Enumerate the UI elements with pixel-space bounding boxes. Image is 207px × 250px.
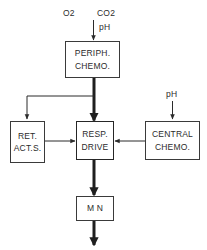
flow-diagram: O2 CO2 pH pH PERIPH. CHEMO. RET. ACT.S. …	[0, 0, 207, 250]
node-mn-line1: M N	[87, 202, 103, 214]
input-label-co2: CO2	[97, 8, 115, 18]
node-ret-act-s-line2: ACT.S.	[14, 142, 42, 154]
input-label-ph-top: pH	[99, 22, 110, 32]
node-ret-act-s[interactable]: RET. ACT.S.	[10, 121, 45, 163]
node-ret-act-s-line1: RET.	[18, 130, 37, 142]
node-resp-drive[interactable]: RESP. DRIVE	[76, 121, 114, 160]
node-periph-chemo[interactable]: PERIPH. CHEMO.	[65, 41, 120, 78]
node-mn[interactable]: M N	[76, 196, 114, 221]
node-resp-drive-line1: RESP.	[82, 128, 107, 140]
node-resp-drive-line2: DRIVE	[82, 141, 109, 153]
node-periph-chemo-line2: CHEMO.	[75, 60, 110, 72]
input-label-ph-central: pH	[166, 89, 177, 99]
edge-periph-to-ret-act-s	[27, 96, 94, 119]
node-periph-chemo-line1: PERIPH.	[75, 47, 110, 59]
node-central-chemo-line2: CHEMO.	[155, 141, 190, 153]
node-central-chemo[interactable]: CENTRAL CHEMO.	[145, 121, 200, 160]
input-label-o2: O2	[63, 8, 75, 18]
node-central-chemo-line1: CENTRAL	[152, 128, 193, 140]
